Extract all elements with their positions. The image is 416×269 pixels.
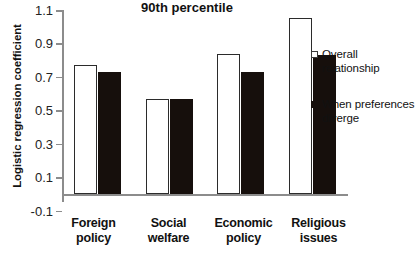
- category-label-line: issues: [281, 231, 356, 246]
- y-axis-tick-label: 0.1: [35, 170, 53, 185]
- chart-container: Logistic regression coefficient 90th per…: [0, 0, 416, 269]
- plot-area: 1.10.90.70.50.30.1-0.1: [62, 10, 348, 202]
- y-axis-tick: [56, 211, 62, 213]
- category-label-line: Social: [131, 216, 206, 231]
- legend-item-overall[interactable]: Overallrelationship: [311, 48, 380, 75]
- y-axis-tick: [56, 110, 62, 112]
- bar-diverge: [241, 72, 264, 194]
- legend-label-line: When preferences: [322, 98, 414, 112]
- bar-diverge: [170, 99, 193, 194]
- bar-overall: [217, 54, 240, 195]
- category-label-line: policy: [56, 231, 131, 246]
- bar-diverge: [98, 72, 121, 194]
- y-axis-line: [62, 10, 64, 202]
- x-axis-category-label: Foreignpolicy: [56, 216, 131, 246]
- y-axis-tick-label: 0.3: [35, 136, 53, 151]
- y-axis-tick: [56, 10, 62, 12]
- x-axis-baseline: [62, 194, 348, 196]
- category-label-line: welfare: [131, 231, 206, 246]
- legend-label: Overallrelationship: [322, 48, 380, 75]
- y-axis-tick-label: 1.1: [35, 3, 53, 18]
- legend-label-line: relationship: [322, 62, 380, 76]
- bar-overall: [146, 99, 169, 194]
- x-axis-category-label: Socialwelfare: [131, 216, 206, 246]
- y-axis-tick-label: -0.1: [31, 203, 53, 218]
- x-axis-category-labels: ForeignpolicySocialwelfareEconomicpolicy…: [56, 216, 356, 264]
- y-axis-tick-label: 0.7: [35, 69, 53, 84]
- bar-overall: [74, 65, 97, 194]
- category-label-line: Economic: [206, 216, 281, 231]
- legend-swatch-open-icon: [311, 51, 318, 58]
- x-axis-category-label: Religiousissues: [281, 216, 356, 246]
- category-label-line: Foreign: [56, 216, 131, 231]
- legend-swatch-filled-icon: [311, 101, 318, 108]
- legend-label-line: Overall: [322, 48, 380, 62]
- y-axis-tick: [56, 43, 62, 45]
- y-axis-tick: [56, 77, 62, 79]
- y-axis-tick: [56, 177, 62, 179]
- y-axis-tick-label: 0.9: [35, 36, 53, 51]
- legend-label: When preferencesdiverge: [322, 98, 414, 125]
- y-axis-tick-label: 0.5: [35, 103, 53, 118]
- y-axis-tick: [56, 144, 62, 146]
- bar-overall: [289, 18, 312, 194]
- y-axis-title: Logistic regression coefficient: [11, 6, 23, 206]
- x-axis-category-label: Economicpolicy: [206, 216, 281, 246]
- legend-item-diverge[interactable]: When preferencesdiverge: [311, 98, 414, 125]
- legend-label-line: diverge: [322, 112, 414, 126]
- category-label-line: Religious: [281, 216, 356, 231]
- category-label-line: policy: [206, 231, 281, 246]
